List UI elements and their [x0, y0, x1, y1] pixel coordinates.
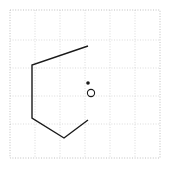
plot-canvas [0, 0, 170, 170]
figure-background [0, 0, 170, 170]
figure-container [0, 0, 170, 170]
filled-point [86, 81, 90, 85]
